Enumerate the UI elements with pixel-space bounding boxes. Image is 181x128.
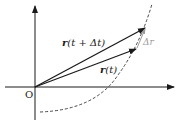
label-delta-r: Δr xyxy=(142,37,154,47)
trajectory-curve xyxy=(40,4,152,112)
vector-r-t xyxy=(35,49,136,87)
position-vector-diagram: O r(t + Δt) r(t) Δr xyxy=(0,0,181,128)
label-r-t: r(t) xyxy=(100,64,117,75)
label-r-t-plus-dt: r(t + Δt) xyxy=(62,37,105,48)
origin-label: O xyxy=(25,89,33,100)
label-r-t-rest: (t) xyxy=(105,64,117,75)
label-r-t-plus-dt-rest: (t + Δt) xyxy=(67,37,105,48)
